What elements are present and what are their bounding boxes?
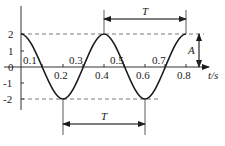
x-tick-0.4: 0.4 bbox=[95, 69, 109, 81]
amplitude-label: A bbox=[187, 44, 195, 56]
x-tick-0.1: 0.1 bbox=[23, 54, 37, 66]
period-top-label: T bbox=[142, 5, 149, 17]
y-tick-2: 2 bbox=[8, 28, 14, 40]
y-tick-neg2: -2 bbox=[3, 93, 12, 105]
shm-graph: 2 1 0 -1 -2 0.1 0.2 0.3 0.4 0.5 0.6 0.7 … bbox=[0, 0, 225, 146]
x-tick-0.8: 0.8 bbox=[177, 69, 191, 81]
x-axis-label: t/s bbox=[208, 69, 218, 81]
x-tick-0.7: 0.7 bbox=[152, 54, 166, 66]
period-bottom-label: T bbox=[101, 110, 108, 122]
y-tick-1: 1 bbox=[8, 45, 14, 57]
x-tick-0.3: 0.3 bbox=[69, 54, 83, 66]
x-tick-0.2: 0.2 bbox=[54, 69, 68, 81]
x-tick-0.6: 0.6 bbox=[136, 69, 150, 81]
y-tick-neg1: -1 bbox=[3, 77, 12, 89]
origin-label: 0 bbox=[8, 61, 14, 73]
